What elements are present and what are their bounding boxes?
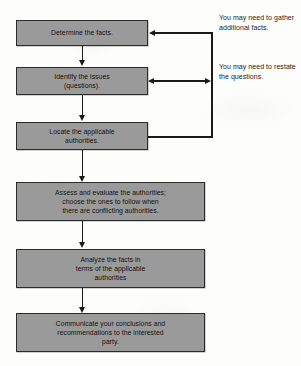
node-line: choose the ones to follow when xyxy=(55,197,166,206)
connector-assess-to-analyze xyxy=(82,221,84,243)
feedback-leg-identify-bidirectional xyxy=(152,80,206,82)
node-line: (questions). xyxy=(54,81,109,90)
arrowhead-down-identify xyxy=(79,60,85,66)
node-line: Assess and evaluate the authorities; xyxy=(55,188,166,197)
node-line: party. xyxy=(56,337,165,346)
feedback-leg-from-locate xyxy=(148,136,213,138)
node-line: Communicate your conclusions and xyxy=(56,319,165,328)
annotation-line: You may need to xyxy=(219,14,272,21)
node-determine-facts: Determine the facts. xyxy=(16,20,148,46)
feedback-loop-riser xyxy=(211,32,213,137)
node-line: Locate the applicable xyxy=(49,127,114,136)
arrowhead-down-analyze xyxy=(79,242,85,248)
annotation-restate-questions: You may need to restate the questions. xyxy=(219,62,299,81)
connector-analyze-to-communicate xyxy=(82,288,84,308)
flowchart-diagram: Determine the facts. Identify the issues… xyxy=(0,0,301,366)
annotation-line: questions. xyxy=(231,73,263,80)
node-analyze-facts: Analyze the facts in terms of the applic… xyxy=(16,249,205,288)
arrowhead-left-identify xyxy=(148,78,154,84)
node-line: terms of the applicable xyxy=(76,264,146,273)
feedback-leg-to-determine xyxy=(153,32,213,34)
arrowhead-left-determine xyxy=(149,30,155,36)
node-line: Determine the facts. xyxy=(51,28,113,37)
node-line: authorities. xyxy=(49,136,114,145)
arrowhead-down-locate xyxy=(79,115,85,121)
node-communicate-conclusions: Communicate your conclusions and recomme… xyxy=(16,313,205,352)
node-line: authorities xyxy=(76,273,146,282)
annotation-line: facts. xyxy=(251,24,268,31)
connector-locate-to-assess xyxy=(82,150,84,176)
annotation-line: You may need to xyxy=(219,63,272,70)
annotation-gather-facts: You may need to gather additional facts. xyxy=(219,13,299,32)
node-line: Analyze the facts in xyxy=(76,255,146,264)
node-identify-issues: Identify the issues (questions). xyxy=(16,67,148,95)
node-line: recommendations to the interested xyxy=(56,328,165,337)
node-locate-authorities: Locate the applicable authorities. xyxy=(16,122,148,150)
node-line: Identify the issues xyxy=(54,72,109,81)
node-line: there are conflicting authorities. xyxy=(55,206,166,215)
arrowhead-right-riser xyxy=(205,78,211,84)
node-assess-authorities: Assess and evaluate the authorities; cho… xyxy=(16,182,205,221)
